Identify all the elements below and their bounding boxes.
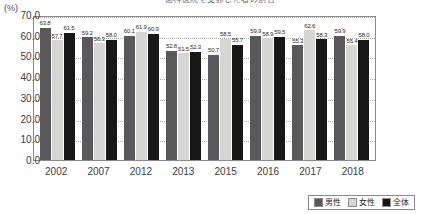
y-axis-tick-label: 30.0 <box>8 94 40 104</box>
bar-value-label: 52.8 <box>166 43 177 50</box>
bar-slot: 52.8 <box>166 17 177 160</box>
y-axis-tick-label: 10.0 <box>8 135 40 145</box>
total-swatch-icon <box>382 198 391 207</box>
legend-label: 全体 <box>393 198 409 207</box>
bar-slot: 60.9 <box>148 17 159 160</box>
bar-slot: 55.3 <box>292 17 303 160</box>
bar-slot: 59.5 <box>274 17 285 160</box>
bar-slot: 57.7 <box>52 17 63 160</box>
bar[interactable]: 61.5 <box>64 33 75 160</box>
bar-group: 59.256.358.0 <box>78 17 120 160</box>
bar[interactable]: 58.0 <box>106 40 117 160</box>
bar[interactable]: 60.9 <box>148 34 159 160</box>
bar-value-label: 55.4 <box>346 38 357 45</box>
bar-value-label: 59.9 <box>334 28 345 35</box>
bar-slot: 51.5 <box>178 17 189 160</box>
bar[interactable]: 52.8 <box>166 51 177 160</box>
bar[interactable]: 55.7 <box>232 45 243 160</box>
bar[interactable]: 57.7 <box>52 40 63 160</box>
bar-value-label: 60.1 <box>124 28 135 35</box>
x-axis-tick-label: 2016 <box>247 166 289 180</box>
bar-slot: 55.4 <box>346 17 357 160</box>
x-axis-tick-label: 2013 <box>162 166 204 180</box>
bar-value-label: 63.8 <box>40 20 51 27</box>
female-swatch-icon <box>348 198 357 207</box>
bar-value-label: 59.5 <box>274 29 285 36</box>
bar-value-label: 59.2 <box>82 30 93 37</box>
bar-slot: 58.0 <box>358 17 369 160</box>
bar[interactable]: 61.9 <box>136 32 147 160</box>
bar-group: 60.161.960.9 <box>120 17 162 160</box>
bar-value-label: 61.5 <box>64 25 75 32</box>
chart-page: 歯科医院を受診した者の割合 (%) 63.857.761.559.256.358… <box>0 0 421 214</box>
bar-slot: 63.8 <box>40 17 51 160</box>
bar-group: 59.958.959.5 <box>247 17 289 160</box>
x-axis-tick-labels: 20022007201220132015201620172018 <box>33 166 376 180</box>
bar[interactable]: 56.3 <box>94 43 105 160</box>
bar-slot: 50.7 <box>208 17 219 160</box>
bar[interactable]: 63.8 <box>40 28 51 160</box>
bar-value-label: 52.3 <box>190 44 201 51</box>
bar-group: 59.955.458.0 <box>331 17 373 160</box>
bar[interactable]: 59.9 <box>250 36 261 160</box>
bar-value-label: 58.0 <box>106 32 117 39</box>
x-axis-tick-label: 2015 <box>205 166 247 180</box>
legend-item[interactable]: 女性 <box>348 198 375 207</box>
bar-value-label: 61.9 <box>136 24 147 31</box>
bar[interactable]: 55.4 <box>346 45 357 160</box>
bar-group: 55.362.658.3 <box>289 17 331 160</box>
y-axis-tick-label: 0.0 <box>8 156 40 166</box>
x-axis-tick-label: 2007 <box>77 166 119 180</box>
legend-label: 女性 <box>359 198 375 207</box>
x-axis-tick-label: 2012 <box>120 166 162 180</box>
bar-slot: 56.3 <box>94 17 105 160</box>
y-axis-tick-label: 40.0 <box>8 73 40 83</box>
bar-slot: 59.9 <box>334 17 345 160</box>
bar[interactable]: 58.9 <box>262 38 273 160</box>
bar-slot: 55.7 <box>232 17 243 160</box>
bar-slot: 58.5 <box>220 17 231 160</box>
bar-value-label: 58.5 <box>220 31 231 38</box>
y-axis-tick-label: 70.0 <box>8 11 40 21</box>
bar-value-label: 58.3 <box>316 32 327 39</box>
chart-legend: 男性女性全体 <box>308 195 415 210</box>
bar-groups: 63.857.761.559.256.358.060.161.960.952.8… <box>34 17 375 160</box>
chart-title: 歯科医院を受診した者の割合 <box>105 0 335 3</box>
x-axis-tick-label: 2018 <box>332 166 374 180</box>
bar[interactable]: 55.3 <box>292 45 303 160</box>
bar[interactable]: 60.1 <box>124 36 135 160</box>
y-axis-tick-label: 60.0 <box>8 32 40 42</box>
x-axis-tick-label: 2002 <box>35 166 77 180</box>
bar[interactable]: 51.5 <box>178 53 189 160</box>
bar-group: 52.851.552.3 <box>162 17 204 160</box>
bar[interactable]: 58.0 <box>358 40 369 160</box>
bar-slot: 60.1 <box>124 17 135 160</box>
x-axis-tick-label: 2017 <box>289 166 331 180</box>
bar[interactable]: 62.6 <box>304 30 315 160</box>
bar[interactable]: 58.5 <box>220 39 231 160</box>
bar-value-label: 58.0 <box>358 32 369 39</box>
bar-value-label: 56.3 <box>94 36 105 43</box>
legend-label: 男性 <box>325 198 341 207</box>
bar[interactable]: 59.9 <box>334 36 345 160</box>
bar-group: 50.758.555.7 <box>205 17 247 160</box>
bar-slot: 61.9 <box>136 17 147 160</box>
y-axis-tick-label: 20.0 <box>8 115 40 125</box>
bar-slot: 58.0 <box>106 17 117 160</box>
bar-group: 63.857.761.5 <box>36 17 78 160</box>
bar-slot: 61.5 <box>64 17 75 160</box>
bar[interactable]: 58.3 <box>316 39 327 160</box>
bar[interactable]: 52.3 <box>190 52 201 160</box>
bar-slot: 52.3 <box>190 17 201 160</box>
bar-value-label: 50.7 <box>208 47 219 54</box>
y-axis-tick-label: 50.0 <box>8 52 40 62</box>
bar-value-label: 62.6 <box>304 23 315 30</box>
bar-value-label: 58.9 <box>262 31 273 38</box>
bar[interactable]: 50.7 <box>208 55 219 160</box>
bar[interactable]: 59.5 <box>274 37 285 160</box>
bar[interactable]: 59.2 <box>82 37 93 160</box>
bar-value-label: 55.7 <box>232 37 243 44</box>
legend-item[interactable]: 男性 <box>314 198 341 207</box>
legend-item[interactable]: 全体 <box>382 198 409 207</box>
bar-slot: 58.3 <box>316 17 327 160</box>
